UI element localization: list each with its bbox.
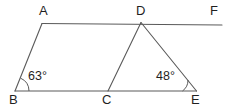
vertex-label-a: A [39,4,48,17]
segment-AF [42,24,222,26]
geometry-diagram: A D F B C E 63° 48° [0,0,228,111]
angle-arc-at-E [183,80,189,91]
vertex-label-b: B [9,93,18,106]
vertex-label-d: D [136,4,145,17]
angle-label-at-b: 63° [28,70,47,83]
segment-CD [108,23,141,92]
vertex-label-e: E [191,93,200,106]
vertex-label-c: C [102,93,111,106]
angle-label-at-e: 48° [156,70,175,83]
vertex-label-f: F [210,4,218,17]
